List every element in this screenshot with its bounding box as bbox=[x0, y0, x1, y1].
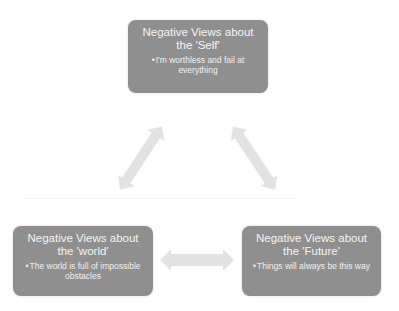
double-arrow-icon-self-world bbox=[112, 121, 170, 196]
node-title: Negative Views about the 'world' bbox=[19, 232, 147, 258]
node-bullet-text: The world is full of impossible obstacle… bbox=[29, 261, 140, 281]
node-world: Negative Views about the 'world' •The wo… bbox=[13, 226, 153, 296]
bullet-icon: • bbox=[152, 55, 155, 65]
node-self: Negative Views about the 'Self' •I'm wor… bbox=[128, 20, 268, 93]
node-title: Negative Views about the 'Future' bbox=[248, 232, 375, 258]
node-future: Negative Views about the 'Future' •Thing… bbox=[242, 226, 381, 296]
node-bullet-text: I'm worthless and fail at everything bbox=[156, 55, 245, 75]
node-bullet: •Things will always be this way bbox=[248, 261, 375, 271]
node-bullet: •I'm worthless and fail at everything bbox=[134, 55, 262, 75]
node-bullet: •The world is full of impossible obstacl… bbox=[19, 261, 147, 281]
bullet-icon: • bbox=[253, 261, 256, 271]
node-bullet-text: Things will always be this way bbox=[257, 261, 370, 271]
double-arrow-icon-world-future bbox=[160, 249, 234, 271]
double-arrow-icon-self-future bbox=[225, 121, 284, 195]
node-title: Negative Views about the 'Self' bbox=[134, 26, 262, 52]
